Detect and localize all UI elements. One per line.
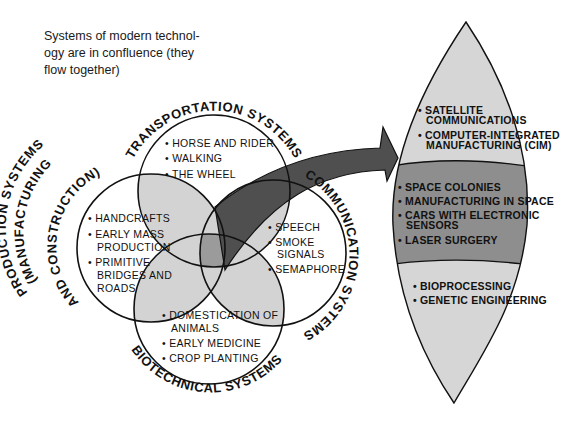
list-item: • CROP PLANTING bbox=[162, 352, 259, 364]
list-item: • DOMESTICATION OF bbox=[162, 309, 278, 321]
list-item: • THE WHEEL bbox=[165, 168, 236, 180]
list-item: • GENETIC ENGINEERING bbox=[413, 294, 547, 306]
list-item: COMMUNICATIONS bbox=[426, 114, 527, 126]
list-item: BRIDGES AND bbox=[97, 269, 172, 281]
biotechnical-items: • DOMESTICATION OF ANIMALS • EARLY MEDIC… bbox=[162, 309, 278, 364]
list-item: • PRIMITIVE bbox=[88, 256, 150, 268]
list-item: • EARLY MEDICINE bbox=[162, 337, 261, 349]
list-item: • WALKING bbox=[165, 152, 222, 164]
list-item: ANIMALS bbox=[171, 322, 219, 334]
transportation-items: • HORSE AND RIDER • WALKING • THE WHEEL bbox=[165, 137, 274, 180]
list-item: ROADS bbox=[97, 282, 136, 294]
lens-middle-band-items: • SPACE COLONIES • MANUFACTURING IN SPAC… bbox=[398, 181, 554, 246]
list-item: • BIOPROCESSING bbox=[413, 280, 511, 292]
confluence-diagram: Systems of modern technol- ogy are in co… bbox=[0, 0, 587, 421]
list-item: • SEMAPHORE bbox=[268, 263, 345, 275]
list-item: • SPACE COLONIES bbox=[398, 181, 501, 193]
list-item: PRODUCTION bbox=[97, 241, 171, 253]
list-item: SIGNALS bbox=[277, 248, 325, 260]
list-item: • LASER SURGERY bbox=[398, 234, 498, 246]
list-item: • SPEECH bbox=[268, 221, 320, 233]
communication-items: • SPEECH • SMOKE SIGNALS • SEMAPHORE bbox=[268, 221, 345, 275]
list-item: • MANUFACTURING IN SPACE bbox=[398, 195, 554, 207]
list-item: • HORSE AND RIDER bbox=[165, 137, 274, 149]
diagram-canvas: TRANSPORTATION SYSTEMS COMMUNICATION SYS… bbox=[0, 0, 587, 421]
list-item: SENSORS bbox=[406, 219, 459, 231]
list-item: • EARLY MASS bbox=[88, 228, 164, 240]
list-item: • HANDCRAFTS bbox=[88, 212, 170, 224]
list-item: • SMOKE bbox=[268, 236, 315, 248]
biotechnical-label: BIOTECHNICAL SYSTEMS bbox=[129, 342, 285, 395]
list-item: MANUFACTURING (CIM) bbox=[426, 139, 552, 151]
